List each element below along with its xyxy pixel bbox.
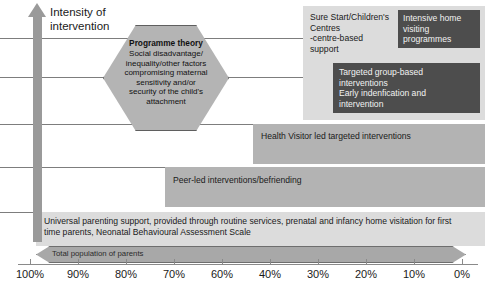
axis-tick-label-90: 90% bbox=[55, 268, 101, 280]
axis-tick-label-20: 20% bbox=[343, 268, 389, 280]
axis-tick-mark bbox=[126, 259, 127, 264]
intensity-axis-label: Intensity of intervention bbox=[50, 6, 160, 33]
tier-health-visitor-label: Health Visitor led targeted intervention… bbox=[261, 131, 411, 142]
tier-peer-led bbox=[165, 167, 485, 207]
intensity-label-line-1: Intensity of bbox=[50, 6, 106, 18]
tier-universal-parenting-label: Universal parenting support, provided th… bbox=[44, 216, 484, 237]
sure-start-line-2: Centres bbox=[310, 23, 340, 33]
axis-tick-labels: 100% 90% 80% 70% 60% 40% 30% 20% 10% 0% bbox=[0, 268, 485, 288]
tier-health-visitor bbox=[253, 124, 485, 164]
total-population-label: Total population of parents bbox=[52, 249, 143, 258]
targeted-line-3: Early indenfication and bbox=[339, 88, 426, 98]
sure-start-line-1: Sure Start/Children's bbox=[310, 12, 389, 22]
axis-tick-mark bbox=[222, 259, 223, 264]
intensity-arrow-head-icon bbox=[28, 3, 46, 17]
hexagon-line-5: security of the child's bbox=[129, 87, 203, 96]
hexagon-title: Programme theory bbox=[113, 39, 219, 49]
axis-tick-label-70: 70% bbox=[151, 268, 197, 280]
targeted-line-4: intervention bbox=[339, 99, 383, 109]
intensive-line-1: Intensive home bbox=[403, 13, 461, 23]
intensity-label-line-2: intervention bbox=[50, 20, 109, 32]
axis-tick-mark bbox=[318, 259, 319, 264]
targeted-line-1: Targeted group-based bbox=[339, 67, 423, 77]
hexagon-line-1: Social disadvantage/ bbox=[129, 49, 203, 58]
axis-tick-mark bbox=[270, 259, 271, 264]
hexagon-line-2: inequality/other factors bbox=[126, 59, 207, 68]
sure-start-line-3: -centre-based bbox=[310, 33, 363, 43]
axis-tick-label-60: 60% bbox=[199, 268, 245, 280]
axis-tick-label-40: 40% bbox=[247, 268, 293, 280]
tier-intensive-home-visiting-label: Intensive home visiting programmes bbox=[403, 13, 481, 45]
intensity-arrow-shaft bbox=[33, 16, 42, 242]
universal-line-1: Universal parenting support, provided th… bbox=[44, 216, 451, 226]
axis-tick-mark bbox=[174, 259, 175, 264]
axis-baseline bbox=[18, 264, 478, 265]
intensive-line-3: programmes bbox=[403, 34, 451, 44]
axis-tick-label-30: 30% bbox=[295, 268, 341, 280]
axis-tick-mark bbox=[78, 259, 79, 264]
universal-line-2: time parents, Neonatal Behavioural Asses… bbox=[44, 227, 251, 237]
hexagon-line-4: sensitivity and/or bbox=[136, 78, 196, 87]
sure-start-line-4: support bbox=[310, 44, 339, 54]
hexagon-line-3: compromising maternal bbox=[124, 68, 207, 77]
axis-tick-mark bbox=[366, 259, 367, 264]
tier-targeted-group-based-label: Targeted group-based interventions Early… bbox=[339, 67, 481, 109]
axis-tick-mark bbox=[414, 259, 415, 264]
axis-tick-label-100: 100% bbox=[7, 268, 53, 280]
tier-peer-led-label: Peer-led interventions/befriending bbox=[173, 175, 302, 186]
intervention-pyramid-diagram: Universal parenting support, provided th… bbox=[0, 0, 485, 291]
hexagon-text: Programme theory Social disadvantage/ in… bbox=[113, 39, 219, 107]
axis-tick-mark bbox=[30, 259, 31, 264]
axis-tick-label-0: 0% bbox=[439, 268, 485, 280]
hexagon-line-6: attachment bbox=[146, 97, 186, 106]
targeted-line-2: interventions bbox=[339, 78, 388, 88]
intensive-line-2: visiting bbox=[403, 24, 429, 34]
tier-sure-start-label: Sure Start/Children's Centres -centre-ba… bbox=[310, 12, 402, 54]
programme-theory-hexagon: Programme theory Social disadvantage/ in… bbox=[103, 25, 229, 131]
axis-tick-label-80: 80% bbox=[103, 268, 149, 280]
axis-tick-label-10: 10% bbox=[391, 268, 437, 280]
axis-tick-mark bbox=[462, 259, 463, 264]
